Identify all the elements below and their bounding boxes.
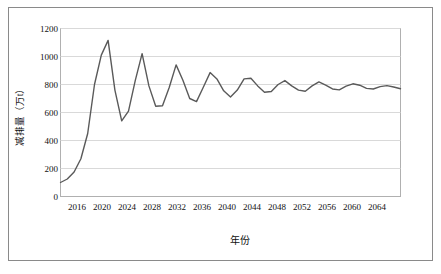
chart-figure: 1200 1000 800 600 400 200 0 2016 2020 20… (0, 0, 441, 274)
chart-plot-container: 1200 1000 800 600 400 200 0 2016 2020 20… (0, 0, 441, 274)
plot-svg (0, 0, 441, 274)
